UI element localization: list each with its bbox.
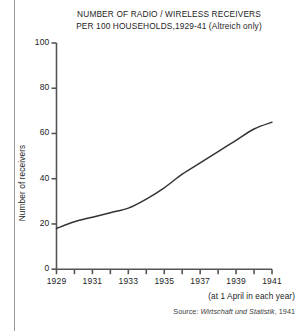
y-axis-label: Number of receivers [17, 133, 27, 233]
y-axis-tick-label: 0 [24, 263, 50, 273]
x-axis-tick-label: 1941 [255, 276, 289, 286]
data-series-line [57, 122, 273, 228]
x-axis-tick-label: 1931 [75, 276, 109, 286]
x-axis-tick-label: 1929 [40, 276, 74, 286]
x-axis-tick-label: 1939 [219, 276, 253, 286]
chart-figure: NUMBER OF RADIO / WIRELESS RECEIVERS PER… [0, 0, 303, 331]
x-axis-tick-label: 1937 [183, 276, 217, 286]
source-prefix: Source: [173, 307, 198, 316]
y-axis-tick-label: 40 [24, 173, 50, 183]
source-publication: Wirtschaft und Statistik [200, 307, 274, 316]
y-axis-tick-label: 60 [24, 127, 50, 137]
x-axis [57, 269, 273, 274]
y-axis [52, 43, 57, 270]
source-note: Source: Wirtschaft und Statistik, 1941 [173, 307, 295, 316]
x-axis-tick-label: 1935 [147, 276, 181, 286]
y-axis-tick-label: 80 [24, 82, 50, 92]
x-axis-tick-label: 1933 [111, 276, 145, 286]
source-year: , 1941 [275, 307, 295, 316]
x-axis-note: (at 1 April in each year) [208, 292, 295, 301]
y-axis-tick-label: 100 [24, 37, 50, 47]
y-axis-tick-label: 20 [24, 218, 50, 228]
